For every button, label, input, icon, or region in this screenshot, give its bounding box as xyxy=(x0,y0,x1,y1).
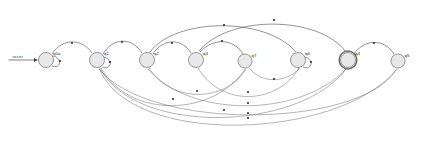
transition-q2-to-q6 xyxy=(150,26,296,52)
transition-edges-above xyxy=(52,19,394,54)
transition-q4-to-q5 xyxy=(354,42,394,54)
arrowhead-q3-to-q6 xyxy=(247,91,249,93)
state-circle-q3[interactable] xyxy=(189,53,204,68)
start-arrowhead-icon xyxy=(34,58,38,62)
state-node-q7[interactable]: q7 xyxy=(238,53,257,68)
state-node-q1[interactable]: q1 xyxy=(90,51,110,67)
transition-q4-to-q2 xyxy=(148,69,346,106)
state-circle-q2[interactable] xyxy=(140,53,155,68)
transition-q3-to-q4 xyxy=(199,24,346,52)
arrowhead-self-loop-q6 xyxy=(310,61,312,63)
start-arrow-group: reset xyxy=(9,54,38,62)
diagram-canvas: reset q0aq1q2q3q7q6q4q5 xyxy=(0,0,421,158)
arrowhead-q3-to-q4 xyxy=(273,19,275,21)
state-circle-q7[interactable] xyxy=(238,54,252,68)
transition-edges-below xyxy=(99,68,397,125)
arrowhead-q1-to-q4 xyxy=(223,109,225,111)
transition-q7-to-q6 xyxy=(249,68,300,80)
arrowhead-q4-to-q5 xyxy=(373,42,375,44)
state-circle-q1[interactable] xyxy=(90,53,105,68)
arrowhead-self-loop-q1 xyxy=(109,61,111,63)
state-label-q6: q6 xyxy=(305,51,310,56)
state-label-q3: q3 xyxy=(203,51,208,56)
state-circle-q4[interactable] xyxy=(341,53,356,68)
state-label-q1: q1 xyxy=(104,51,109,56)
state-circle-q5[interactable] xyxy=(391,54,405,68)
state-label-q7: q7 xyxy=(252,53,257,58)
arrowhead-q0-to-q1 xyxy=(71,42,73,44)
state-label-q0: q0a xyxy=(53,51,61,56)
state-node-q3[interactable]: q3 xyxy=(189,51,209,67)
state-label-q4: q4 xyxy=(355,51,360,56)
arrowhead-q4-to-q2 xyxy=(247,102,249,104)
state-circle-q0[interactable] xyxy=(39,53,54,68)
start-label: reset xyxy=(13,54,24,59)
arrowhead-q1-to-q5 xyxy=(247,117,249,119)
arrowhead-q2-to-q6 xyxy=(223,24,225,26)
arrowhead-self-loop-q0 xyxy=(59,60,61,62)
state-node-q2[interactable]: q2 xyxy=(140,51,160,67)
state-node-q0[interactable]: q0a xyxy=(39,51,61,67)
arrowhead-q2-to-q7 xyxy=(196,90,198,92)
state-node-q4[interactable]: q4 xyxy=(339,51,360,69)
arrowhead-q1-to-q2 xyxy=(121,41,123,43)
state-nodes: q0aq1q2q3q7q6q4q5 xyxy=(39,51,410,69)
state-node-q6[interactable]: q6 xyxy=(291,51,311,67)
arrowhead-q2-to-q3 xyxy=(171,42,173,44)
arrowhead-q3-to-q7 xyxy=(221,40,223,42)
arrowhead-q7-to-q6 xyxy=(273,78,275,80)
state-label-q5: q5 xyxy=(405,53,410,58)
state-label-q2: q2 xyxy=(154,51,159,56)
state-machine-svg: reset q0aq1q2q3q7q6q4q5 xyxy=(0,0,421,158)
arrowhead-q1-to-q7 xyxy=(172,98,174,100)
state-circle-q6[interactable] xyxy=(291,53,306,68)
arrowhead-q5-to-q1 xyxy=(247,112,249,114)
state-node-q5[interactable]: q5 xyxy=(391,53,410,68)
